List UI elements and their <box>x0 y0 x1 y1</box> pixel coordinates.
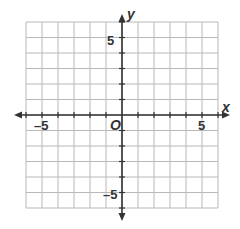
x-tick-label-neg5: –5 <box>34 119 48 132</box>
x-axis-label: x <box>222 100 230 114</box>
x-axis-left-arrow-icon <box>14 112 22 119</box>
y-tick-label-neg5: –5 <box>103 188 117 201</box>
y-axis-down-arrow-icon <box>119 213 126 221</box>
y-axis-up-arrow-icon <box>119 14 126 22</box>
origin-label: O <box>110 118 121 132</box>
coordinate-plane <box>0 0 240 229</box>
x-tick-label-5: 5 <box>198 119 205 132</box>
y-tick-label-5: 5 <box>107 34 114 47</box>
y-axis-label: y <box>127 7 135 21</box>
